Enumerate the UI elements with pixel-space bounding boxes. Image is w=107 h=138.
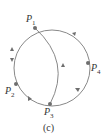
figure-caption: (c) [43,122,54,133]
label-p3: P3 [44,107,54,120]
label-p4: P4 [91,63,101,76]
arrow-up-left-icon [72,32,76,36]
node-p4 [86,61,90,65]
arrow-up-icon [10,47,14,51]
label-p2: P2 [5,86,15,99]
arrow-icons [10,32,80,101]
label-p1: P1 [26,14,36,27]
inner-arc [35,28,58,104]
outer-circle [14,30,90,106]
arrow-up-right-icon [75,88,80,92]
arrow-down-icon [10,58,14,62]
arrow-up-icon [61,63,65,67]
